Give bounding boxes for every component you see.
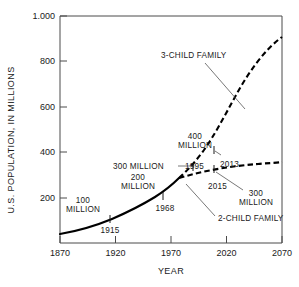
annot-100-million-unit: MILLION xyxy=(66,205,100,214)
annot-2015-year: 2015 xyxy=(208,182,227,191)
x-tick-label-2020: 2020 xyxy=(216,248,236,258)
annotation-300-million-1995: 300 MILLION 1995 xyxy=(113,162,204,171)
annot-1995-year: 1995 xyxy=(185,162,204,171)
annot-2013-year: 2013 xyxy=(220,160,239,169)
annotation-300-million-2015: 2015 300 MILLION xyxy=(208,182,273,207)
annotation-200-million: 200 MILLION 1968 xyxy=(121,173,175,213)
series-label-three-child-family: 3-CHILD FAMILY xyxy=(161,51,227,60)
annot-200-million-value: 200 xyxy=(131,173,146,182)
y-tick-label-600: 600 xyxy=(40,102,55,112)
y-tick-label-800: 800 xyxy=(40,56,55,66)
annot-300-million-right-value: 300 xyxy=(249,189,264,198)
y-axis-tick-labels: 1.000 800 600 400 200 xyxy=(32,11,55,203)
annot-200-million-unit: MILLION xyxy=(121,182,155,191)
x-axis-ticks xyxy=(60,236,282,243)
y-tick-label-200: 200 xyxy=(40,193,55,203)
annot-1915-year: 1915 xyxy=(100,226,119,235)
annot-100-million-value: 100 xyxy=(76,196,91,205)
annot-300-million-inline: 300 MILLION xyxy=(113,162,164,171)
x-axis-title: YEAR xyxy=(158,266,184,276)
x-tick-label-2070: 2070 xyxy=(272,248,292,258)
leader-three-child-family xyxy=(205,63,245,109)
y-axis-title: U.S. POPULATION, IN MILLIONS xyxy=(6,66,16,213)
x-axis-tick-labels: 1870 1920 1970 2020 2070 xyxy=(50,248,292,258)
y-axis-ticks xyxy=(60,16,67,198)
annot-400-million-value: 400 xyxy=(188,132,203,141)
x-tick-label-1920: 1920 xyxy=(105,248,125,258)
series-label-two-child-family: 2-CHILD FAMILY xyxy=(218,214,284,223)
leader-2013 xyxy=(215,151,221,155)
y-tick-label-1000: 1.000 xyxy=(32,11,55,21)
x-tick-label-1970: 1970 xyxy=(161,248,181,258)
x-tick-label-1870: 1870 xyxy=(50,248,70,258)
chart-canvas: 1.000 800 600 400 200 1870 1920 1970 202… xyxy=(0,0,299,287)
population-projection-chart: 1.000 800 600 400 200 1870 1920 1970 202… xyxy=(0,0,299,287)
annot-300-million-right-unit: MILLION xyxy=(239,198,273,207)
annot-400-million-unit: MILLION xyxy=(178,141,212,150)
y-tick-label-400: 400 xyxy=(40,147,55,157)
annotation-100-million: 100 MILLION 1915 xyxy=(66,196,120,235)
annot-1968-year: 1968 xyxy=(155,204,174,213)
